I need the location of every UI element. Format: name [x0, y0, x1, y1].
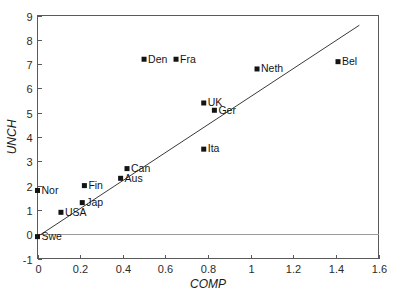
y-tick-label: 6	[26, 83, 32, 95]
data-point-label: Fin	[88, 179, 103, 191]
data-point-marker	[35, 234, 40, 239]
y-tick-label: 3	[26, 156, 32, 168]
x-tick-label: 1.6	[372, 263, 387, 275]
data-point: USA	[58, 206, 86, 218]
data-point: Neth	[255, 62, 284, 74]
data-point-marker	[201, 147, 206, 152]
data-point-label: Neth	[261, 62, 283, 74]
data-point-marker	[35, 188, 40, 193]
data-point-marker	[118, 176, 123, 181]
data-point-label: Nor	[42, 184, 59, 196]
data-point-label: USA	[65, 206, 87, 218]
y-tick-label: -1	[23, 254, 33, 266]
x-tick-label: 1.2	[286, 263, 301, 275]
data-point-label: Jap	[86, 196, 103, 208]
x-axis-ticks	[39, 255, 380, 259]
data-point-label: Den	[148, 53, 167, 65]
plot-canvas: 00.20.40.60.811.21.41.6 -10123456789 Swe…	[0, 0, 397, 299]
data-point-marker	[201, 100, 206, 105]
data-point-label: Ger	[218, 104, 236, 116]
data-point-marker	[255, 66, 260, 71]
y-tick-label: 7	[26, 59, 32, 71]
x-tick-label: 0.6	[158, 263, 173, 275]
data-point-marker	[80, 200, 85, 205]
data-point-label: Bel	[342, 55, 357, 67]
data-points: SweNorUSAJapFinAusCanDenFraItaUKGerNethB…	[35, 53, 357, 242]
data-point-marker	[142, 57, 147, 62]
data-point-label: Swe	[42, 230, 63, 242]
x-tick-label: 0.8	[201, 263, 216, 275]
y-axis-tick-labels: -10123456789	[23, 11, 33, 266]
x-tick-label: 1	[248, 263, 254, 275]
y-tick-label: 9	[26, 11, 32, 23]
y-tick-label: 5	[26, 108, 32, 120]
data-point-label: Can	[131, 162, 150, 174]
data-point-marker	[336, 59, 341, 64]
y-axis-ticks	[38, 17, 42, 260]
data-point-label: Fra	[180, 53, 196, 65]
data-point-label: Ita	[208, 142, 220, 154]
y-tick-label: 1	[26, 205, 32, 217]
plot-frame	[38, 16, 379, 259]
data-point: Swe	[35, 230, 62, 242]
x-tick-label: 0.4	[116, 263, 131, 275]
data-point: Den	[142, 53, 168, 65]
x-axis-tick-labels: 00.20.40.60.811.21.41.6	[35, 263, 387, 275]
y-tick-label: 4	[26, 132, 32, 144]
data-point: Fin	[82, 179, 103, 191]
x-axis-title: COMP	[190, 277, 226, 291]
data-point-marker	[125, 166, 130, 171]
data-point-marker	[212, 108, 217, 113]
data-point-marker	[58, 210, 63, 215]
data-point: Ita	[201, 142, 219, 154]
data-point: Nor	[35, 184, 59, 196]
y-tick-label: 0	[26, 229, 32, 241]
x-tick-label: 0.2	[73, 263, 88, 275]
y-tick-label: 2	[26, 181, 32, 193]
data-point-marker	[82, 183, 87, 188]
x-tick-label: 1.4	[329, 263, 344, 275]
data-point-marker	[174, 57, 179, 62]
y-tick-label: 8	[26, 35, 32, 47]
scatter-plot-figure: 00.20.40.60.811.21.41.6 -10123456789 Swe…	[0, 0, 397, 299]
data-point: Bel	[336, 55, 358, 67]
data-point: Fra	[174, 53, 196, 65]
y-axis-title: UNCH	[5, 119, 19, 154]
x-tick-label: 0	[35, 263, 41, 275]
